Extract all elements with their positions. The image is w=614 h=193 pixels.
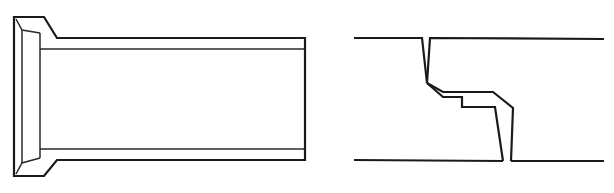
top-wall-right [427,38,604,83]
socket-inner-top-bevel [16,19,40,33]
joint-section-figure [354,38,604,161]
diagram-canvas [0,0,614,193]
joint-lower-profile [427,83,503,161]
pipe-outline [14,17,305,176]
diagram-svg [0,0,614,193]
top-wall-left [354,38,427,83]
socket-inner-bottom-bevel [16,158,40,174]
bottom-wall-left [354,160,503,161]
socket-pipe-figure [14,17,305,176]
